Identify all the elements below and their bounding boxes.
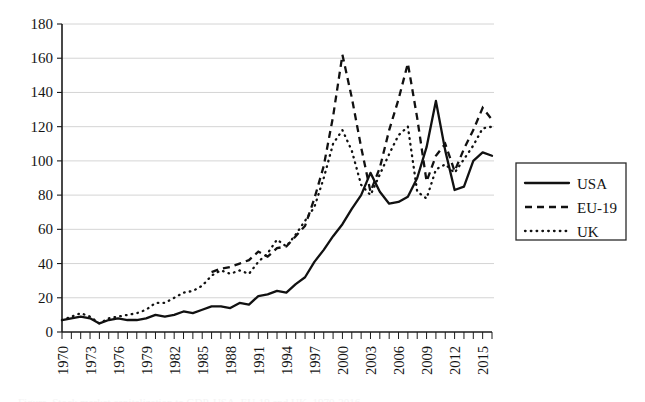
legend-label-eu-19: EU-19: [577, 200, 617, 216]
y-tick-label-80: 80: [38, 187, 53, 203]
series-line-eu-19: [212, 55, 492, 272]
x-tick-label-2003: 2003: [363, 346, 379, 375]
y-tick-label-100: 100: [31, 153, 54, 169]
x-tick-label-1991: 1991: [251, 346, 267, 375]
y-axis-labels-group: 020406080100120140160180: [31, 16, 54, 340]
x-tick-label-1997: 1997: [307, 346, 323, 375]
x-tick-label-2000: 2000: [335, 346, 351, 375]
x-tick-label-2006: 2006: [391, 346, 407, 375]
x-tick-label-1985: 1985: [195, 346, 211, 375]
x-tick-label-1976: 1976: [111, 346, 127, 375]
y-tick-label-140: 140: [31, 84, 54, 100]
gridlines-group: [62, 24, 494, 298]
x-tick-label-2015: 2015: [475, 346, 491, 375]
x-tick-label-1994: 1994: [279, 345, 295, 375]
x-tick-label-1988: 1988: [223, 346, 239, 375]
line-chart-plot: 020406080100120140160180 197019731976197…: [0, 0, 645, 402]
x-tick-label-1970: 1970: [55, 346, 71, 375]
series-line-uk: [62, 127, 492, 324]
legend-label-uk: UK: [577, 224, 599, 240]
y-tick-label-120: 120: [31, 119, 54, 135]
x-tick-label-1973: 1973: [83, 346, 99, 375]
y-tick-label-40: 40: [38, 256, 53, 272]
chart-figure: 020406080100120140160180 197019731976197…: [0, 0, 645, 402]
caption-ghost-text: Figure. Stock market capitalization to G…: [18, 397, 538, 402]
y-tick-label-180: 180: [31, 16, 54, 32]
x-tick-label-2009: 2009: [419, 346, 435, 375]
chart-legend: USAEU-19UK: [516, 163, 626, 240]
data-series-group: [62, 55, 492, 324]
y-tick-label-0: 0: [46, 324, 54, 340]
x-axis-minor-ticks-group: [62, 332, 492, 339]
y-tick-label-60: 60: [38, 221, 53, 237]
series-line-usa: [62, 101, 492, 323]
legend-label-usa: USA: [577, 176, 607, 192]
y-tick-label-160: 160: [31, 50, 54, 66]
y-tick-label-20: 20: [38, 290, 53, 306]
x-tick-label-1982: 1982: [167, 346, 183, 375]
x-tick-label-1979: 1979: [139, 346, 155, 375]
x-tick-label-2012: 2012: [447, 346, 463, 375]
x-axis-labels-group: 1970197319761979198219851988199119941997…: [55, 345, 492, 375]
